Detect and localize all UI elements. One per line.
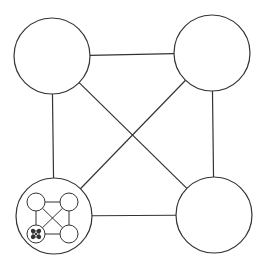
node-level1-top-left [27, 193, 45, 211]
node-level0-bottom-right [176, 177, 252, 253]
recursive-graph-diagram [0, 0, 264, 266]
node-level2-top-left [31, 229, 34, 232]
node-level1-bottom-left [27, 225, 45, 243]
edge-level0-top-left-to-top-right [90, 54, 174, 56]
edge-level0-bottom-right-to-bottom-left [92, 215, 176, 216]
node-level1-bottom-right [60, 225, 78, 243]
edge-level0-bottom-left-to-top-left [52, 94, 53, 178]
node-level2-bottom-left [31, 235, 34, 238]
node-level1-top-right [60, 193, 78, 211]
node-level2-top-right [37, 229, 40, 232]
edge-level0-top-right-to-bottom-left [80, 80, 185, 188]
node-level0-top-right [174, 15, 250, 91]
edge-level0-top-left-to-bottom-right [79, 83, 187, 189]
node-level0-bottom-left [16, 178, 92, 254]
node-level0-top-left [14, 18, 90, 94]
node-level2-bottom-right [37, 235, 40, 238]
edge-level0-top-right-to-bottom-right [212, 91, 213, 177]
